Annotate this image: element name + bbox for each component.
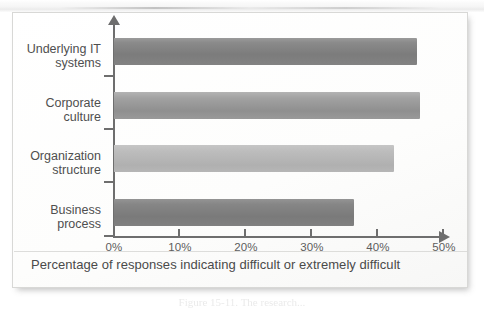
y-axis-tick xyxy=(104,75,114,77)
category-label-organization-structure: Organization structure xyxy=(15,150,101,177)
scan-smudge-top xyxy=(0,0,484,12)
figure-frame: Underlying IT systems Corporate culture … xyxy=(12,12,468,288)
arrow-up-icon xyxy=(108,15,120,25)
bar-underlying-it-systems xyxy=(114,38,417,65)
x-axis-tick xyxy=(178,229,180,237)
caption-divider xyxy=(14,251,468,252)
bar-corporate-culture xyxy=(114,92,420,119)
x-axis-tick xyxy=(244,229,246,237)
chart-plot-area: Underlying IT systems Corporate culture … xyxy=(13,13,467,287)
bar-organization-structure xyxy=(114,145,394,172)
chart-caption: Percentage of responses indicating diffi… xyxy=(31,257,451,272)
x-axis-tick xyxy=(442,229,444,237)
x-axis-tick xyxy=(310,229,312,237)
y-axis-tick xyxy=(104,128,114,130)
category-label-underlying-it-systems: Underlying IT systems xyxy=(15,43,101,70)
figure-caption-below: Figure 15-11. The research... xyxy=(0,296,484,308)
x-axis-line xyxy=(113,236,441,238)
category-label-corporate-culture: Corporate culture xyxy=(15,97,101,124)
category-label-business-process: Business process xyxy=(15,204,101,231)
x-axis-tick xyxy=(113,229,115,237)
x-axis-tick xyxy=(376,229,378,237)
y-axis-tick xyxy=(104,181,114,183)
bar-business-process xyxy=(114,199,354,226)
